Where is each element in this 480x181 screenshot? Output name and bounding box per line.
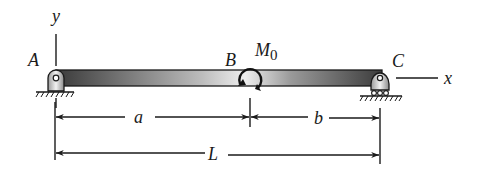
point-a-label: A bbox=[27, 50, 40, 70]
beam-diagram: y A B M0 bbox=[0, 0, 480, 181]
roller-icon bbox=[372, 91, 377, 96]
roller-icon bbox=[378, 91, 383, 96]
dimension-a-label: a bbox=[134, 107, 143, 127]
dimension-l: L bbox=[56, 144, 379, 164]
pin-icon bbox=[377, 75, 382, 80]
dimension-b: b bbox=[251, 108, 379, 128]
dimension-l-label: L bbox=[207, 144, 218, 164]
y-axis-label: y bbox=[50, 6, 60, 26]
beam bbox=[56, 70, 382, 86]
dimension-a: a bbox=[56, 107, 249, 127]
x-axis-label: x bbox=[443, 68, 452, 88]
dimension-b-label: b bbox=[314, 108, 323, 128]
roller-icon bbox=[384, 91, 389, 96]
x-axis: x bbox=[396, 68, 452, 88]
point-b-label: B bbox=[225, 50, 236, 70]
moment-label: M0 bbox=[254, 40, 278, 63]
point-c-label: C bbox=[392, 51, 405, 71]
pin-icon bbox=[53, 75, 59, 81]
